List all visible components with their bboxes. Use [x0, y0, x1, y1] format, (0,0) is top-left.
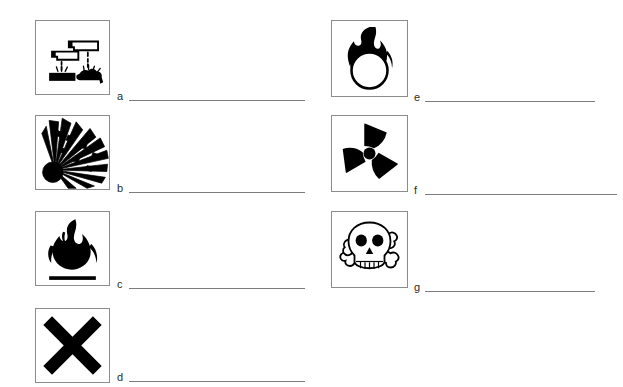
- item-letter-c: c: [117, 279, 123, 290]
- answer-line-b[interactable]: [129, 192, 305, 193]
- hazard-symbols-worksheet: a: [0, 0, 623, 387]
- symbol-box-c: [35, 211, 110, 286]
- answer-line-g[interactable]: [425, 291, 595, 292]
- oxidizing-icon: [332, 21, 407, 96]
- answer-line-a[interactable]: [129, 100, 305, 101]
- irritant-harmful-icon: [36, 309, 109, 382]
- symbol-box-d: [35, 308, 110, 383]
- answer-line-e[interactable]: [425, 101, 595, 102]
- symbol-box-e: [331, 20, 408, 97]
- answer-line-c[interactable]: [129, 288, 305, 289]
- toxic-icon: [332, 212, 407, 287]
- item-letter-g: g: [414, 282, 420, 293]
- symbol-box-b: [35, 115, 110, 190]
- item-letter-f: f: [414, 185, 417, 196]
- item-letter-d: d: [117, 372, 123, 383]
- symbol-box-a: [35, 20, 110, 95]
- item-letter-e: e: [414, 92, 420, 103]
- answer-line-f[interactable]: [425, 194, 617, 195]
- explosive-icon: [36, 116, 109, 189]
- radioactive-icon: [332, 116, 407, 191]
- item-letter-a: a: [117, 91, 123, 102]
- symbol-box-g: [331, 211, 408, 288]
- item-letter-b: b: [117, 183, 123, 194]
- flammable-icon: [36, 212, 109, 285]
- corrosive-icon: [36, 21, 109, 94]
- answer-line-d[interactable]: [129, 381, 305, 382]
- symbol-box-f: [331, 115, 408, 192]
